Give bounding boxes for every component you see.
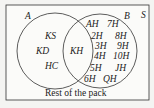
set-b-element: 10H xyxy=(113,52,129,62)
set-a-label: A xyxy=(25,12,31,22)
set-b-element: 4H xyxy=(94,52,106,62)
intersection-element: KH xyxy=(70,47,83,57)
set-b-element: 6H xyxy=(84,75,96,85)
outside-label: Rest of the pack xyxy=(45,89,106,99)
set-b-label: B xyxy=(124,12,130,22)
universal-set-label: S xyxy=(141,11,146,21)
set-a-element: KD xyxy=(36,47,49,57)
set-b-element: 5H xyxy=(90,64,102,74)
set-a-element: HC xyxy=(45,62,58,72)
set-a-element: KS xyxy=(45,32,56,42)
set-b-element: JH xyxy=(115,64,126,74)
set-b-element: 7H xyxy=(107,20,119,30)
set-b-element: AH xyxy=(86,20,99,30)
set-b-element: QH xyxy=(103,75,117,85)
